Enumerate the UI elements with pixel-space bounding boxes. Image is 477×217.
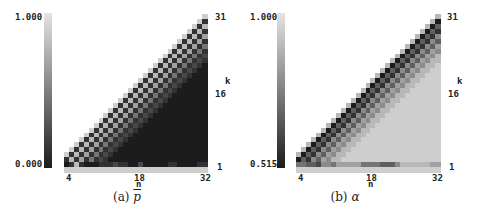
x-tick-4-b: 4 [298,173,303,183]
heatmap-cell [435,167,441,173]
y-tick-31-b: 31 [447,12,458,22]
y-axis-label-b: k [457,76,462,86]
x-tick-32-b: 32 [432,173,443,183]
colorbar-b [277,13,285,168]
caption-prefix-b: (b) [331,190,348,204]
caption-b: (b) α [331,190,360,204]
x-axis-label-b: n [368,179,373,189]
caption-symbol-b: α [351,190,359,204]
colorbar-max-label-b: 1.000 [250,12,277,22]
panel-b: 1.000 0.515 31 k 16 1 4 18 32 n (b) α [0,0,477,217]
y-tick-1-b: 1 [449,162,454,172]
y-tick-16-b: 16 [448,89,459,99]
colorbar-min-label-b: 0.515 [250,159,277,169]
heatmap-b [296,14,440,172]
